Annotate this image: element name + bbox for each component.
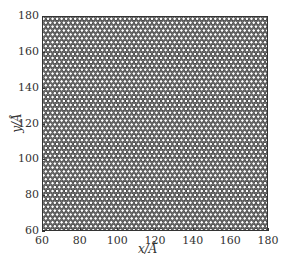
y-tick-mark [42, 88, 45, 89]
y-tick-label: 180 [9, 10, 39, 21]
x-tick-label: 80 [65, 235, 95, 246]
y-tick-mark [42, 231, 45, 232]
y-tick-label: 140 [9, 82, 39, 93]
x-tick-label: 60 [27, 235, 57, 246]
x-tick-label: 180 [253, 235, 282, 246]
x-tick-mark [193, 228, 194, 231]
x-axis-label: x/Å [138, 242, 157, 256]
y-tick-label: 80 [9, 189, 39, 200]
y-axis-label: y/Å [10, 106, 24, 140]
x-tick-mark [42, 228, 43, 231]
hexagonal-lattice [43, 17, 268, 231]
x-tick-label: 100 [102, 235, 132, 246]
y-tick-label: 160 [9, 46, 39, 57]
x-tick-mark [117, 228, 118, 231]
y-tick-label: 100 [9, 153, 39, 164]
y-tick-mark [42, 52, 45, 53]
y-tick-mark [42, 124, 45, 125]
y-tick-mark [42, 159, 45, 160]
x-tick-mark [268, 228, 269, 231]
y-tick-mark [42, 195, 45, 196]
y-tick-mark [42, 16, 45, 17]
figure: 6080100120140160180 6080100120140160180 … [0, 0, 282, 262]
plot-area [42, 16, 268, 231]
x-tick-mark [230, 228, 231, 231]
x-tick-label: 140 [178, 235, 208, 246]
x-tick-label: 160 [215, 235, 245, 246]
x-tick-mark [155, 228, 156, 231]
x-tick-mark [80, 228, 81, 231]
